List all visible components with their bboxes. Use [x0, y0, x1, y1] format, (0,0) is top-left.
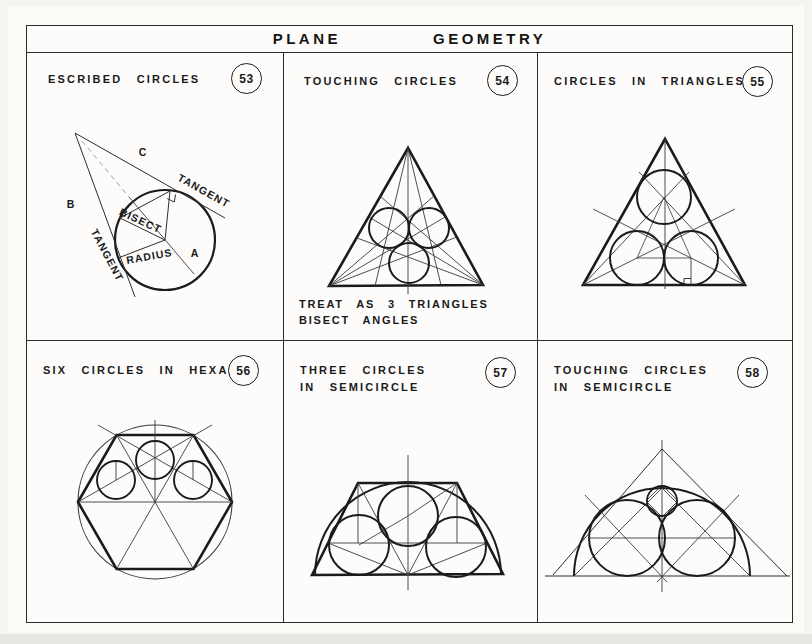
label-tangent-lower: TANGENT	[89, 227, 127, 284]
three-circles-semicircle-diagram	[283, 340, 537, 623]
panel-53: ESCRIBED CIRCLES 53 C B A TANGENT TANGEN…	[26, 53, 283, 340]
title-bar: PLANE GEOMETRY	[26, 25, 793, 53]
label-radius: RADIUS	[125, 246, 173, 266]
panel-54-caption: TREAT AS 3 TRIANGLES BISECT ANGLES	[299, 296, 489, 328]
label-b: B	[67, 198, 76, 210]
page-title-word-1: PLANE	[273, 30, 341, 47]
tangent-line-upper	[75, 133, 225, 218]
panel-55: CIRCLES IN TRIANGLES 55	[537, 53, 793, 340]
centre-link-left	[359, 516, 408, 545]
six-circles-hexagon-diagram	[26, 340, 283, 623]
radial-bottom-left	[117, 502, 156, 569]
diagonal-right-to-topleft	[98, 425, 232, 502]
centre-triangle	[637, 197, 691, 258]
left-bisector-3	[329, 237, 457, 286]
panel-57: THREE CIRCLES IN SEMICIRCLE 57	[283, 340, 537, 623]
page-title-word-2: GEOMETRY	[433, 30, 546, 47]
diagonal-left-to-topright	[78, 425, 212, 502]
panel-56: SIX CIRCLES IN HEXAGON 56	[26, 340, 283, 623]
label-c: C	[139, 146, 148, 158]
tangent-left	[553, 449, 662, 575]
caption-line-2: BISECT ANGLES	[299, 312, 489, 328]
panel-58: TOUCHING CIRCLES IN SEMICIRCLE 58	[537, 340, 793, 623]
inscribed-circle-right	[409, 208, 449, 248]
fan-line-3	[328, 543, 408, 575]
label-a: A	[191, 247, 200, 259]
circles-in-triangles-diagram	[537, 53, 793, 340]
diagonal-left-1	[585, 495, 667, 582]
bisector-faint	[82, 141, 129, 197]
escribed-circles-diagram: C B A TANGENT TANGENT BISECT RADIUS	[26, 53, 283, 340]
label-tangent-upper: TANGENT	[176, 171, 232, 209]
scan-edge-shadow	[0, 634, 812, 644]
diagonal-right-1	[657, 495, 739, 582]
apex-bisector-left	[375, 148, 408, 286]
radial-bottom-right	[155, 502, 194, 569]
caption-line-1: TREAT AS 3 TRIANGLES	[299, 296, 489, 312]
panel-54: TOUCHING CIRCLES 54 TREAT AS 3 TRIANGLES…	[283, 53, 537, 340]
touching-circles-semicircle-diagram	[537, 340, 793, 623]
trapezoid-outline	[312, 483, 503, 575]
fan-line-1	[358, 483, 408, 575]
